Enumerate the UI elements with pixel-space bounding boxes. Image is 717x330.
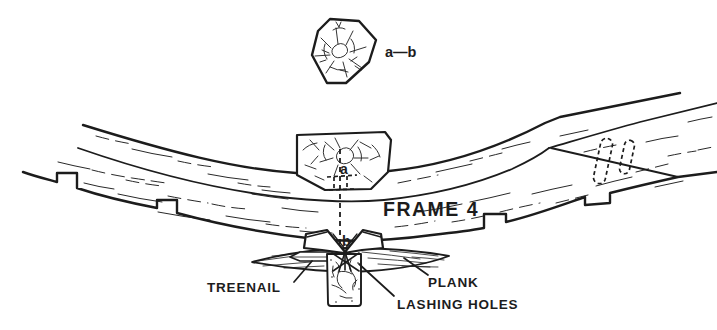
lashing-holes-label: LASHING HOLES (397, 297, 518, 312)
section-label: a—b (385, 44, 417, 60)
frame-lashing-diagram: a—b (0, 0, 717, 330)
point-a-label: a (340, 161, 348, 177)
section-view: a—b (312, 19, 417, 83)
plank-label: PLANK (428, 275, 479, 290)
diagram-canvas: a—b (0, 0, 717, 330)
point-b-label: b (342, 233, 351, 249)
frame-label: FRAME 4 (383, 198, 479, 220)
section-end-grain-texture (315, 22, 366, 77)
treenail-label: TREENAIL (207, 280, 281, 295)
